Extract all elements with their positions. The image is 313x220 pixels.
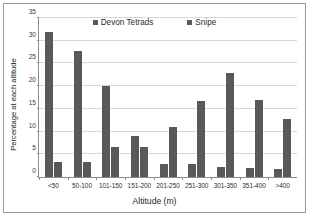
bar-devon-tetrads[interactable] bbox=[246, 168, 254, 177]
bar-group: 151-200 bbox=[125, 18, 154, 177]
bar-snipe[interactable] bbox=[83, 162, 91, 177]
x-tick-label: 351-400 bbox=[242, 182, 265, 189]
x-tick-label: <50 bbox=[48, 182, 59, 189]
bar-group: <50 bbox=[39, 18, 68, 177]
x-tick-mark bbox=[96, 177, 97, 180]
x-tick-label: 101-150 bbox=[99, 182, 122, 189]
bar-group: 101-150 bbox=[96, 18, 125, 177]
y-tick-label: 10 bbox=[29, 121, 36, 128]
x-tick-mark bbox=[240, 177, 241, 180]
y-tick-label: 35 bbox=[29, 8, 36, 15]
bar-devon-tetrads[interactable] bbox=[160, 164, 168, 177]
bar-snipe[interactable] bbox=[283, 119, 291, 177]
x-tick-label: >400 bbox=[276, 182, 290, 189]
bar-devon-tetrads[interactable] bbox=[131, 136, 139, 177]
bars-layer: <5050-100101-150151-200201-250251-300301… bbox=[39, 18, 297, 177]
y-tick-label: 25 bbox=[29, 53, 36, 60]
y-axis-title-text: Percentage at each altitude bbox=[9, 58, 18, 150]
bar-snipe[interactable] bbox=[140, 147, 148, 177]
bar-devon-tetrads[interactable] bbox=[102, 86, 110, 177]
bar-group: 50-100 bbox=[68, 18, 97, 177]
x-tick-mark bbox=[125, 177, 126, 180]
plot-area: 05101520253035 <5050-100101-150151-20020… bbox=[38, 18, 297, 178]
bar-devon-tetrads[interactable] bbox=[74, 51, 82, 177]
x-tick-mark bbox=[154, 177, 155, 180]
bar-snipe[interactable] bbox=[197, 101, 205, 177]
x-tick-mark bbox=[182, 177, 183, 180]
x-tick-mark bbox=[68, 177, 69, 180]
bar-devon-tetrads[interactable] bbox=[188, 164, 196, 177]
bar-snipe[interactable] bbox=[169, 127, 177, 177]
bar-group: 201-250 bbox=[154, 18, 183, 177]
bar-group: 301-350 bbox=[211, 18, 240, 177]
figure-frame: Devon Tetrads Snipe Percentage at each a… bbox=[3, 3, 306, 213]
bar-devon-tetrads[interactable] bbox=[45, 32, 53, 177]
bar-group: >400 bbox=[268, 18, 297, 177]
y-tick-label: 20 bbox=[29, 76, 36, 83]
x-tick-label: 251-300 bbox=[185, 182, 208, 189]
bar-snipe[interactable] bbox=[226, 73, 234, 177]
bar-group: 251-300 bbox=[182, 18, 211, 177]
y-tick-label: 30 bbox=[29, 30, 36, 37]
bar-devon-tetrads[interactable] bbox=[217, 167, 225, 177]
x-tick-mark bbox=[268, 177, 269, 180]
bar-group: 351-400 bbox=[240, 18, 269, 177]
x-tick-mark bbox=[39, 177, 40, 180]
bar-snipe[interactable] bbox=[255, 100, 263, 177]
x-tick-mark bbox=[211, 177, 212, 180]
bar-snipe[interactable] bbox=[111, 147, 119, 177]
bar-snipe[interactable] bbox=[54, 162, 62, 177]
x-tick-label: 301-350 bbox=[214, 182, 237, 189]
x-axis-title: Altitude (m) bbox=[4, 196, 305, 206]
y-axis-title: Percentage at each altitude bbox=[5, 4, 21, 204]
y-tick-label: 5 bbox=[32, 144, 36, 151]
x-tick-label: 201-250 bbox=[156, 182, 179, 189]
y-tick-label: 0 bbox=[32, 167, 36, 174]
x-tick-label: 151-200 bbox=[128, 182, 151, 189]
bar-devon-tetrads[interactable] bbox=[274, 169, 282, 177]
y-tick-label: 15 bbox=[29, 98, 36, 105]
x-tick-label: 50-100 bbox=[72, 182, 92, 189]
